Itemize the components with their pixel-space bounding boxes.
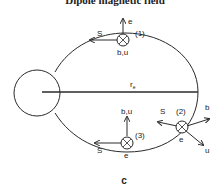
node-2: S b u (2) e — [158, 103, 210, 155]
bu-label: b,u — [117, 48, 128, 57]
radius-label: re — [130, 80, 136, 90]
node-label: (2) — [176, 107, 186, 116]
e-label: e — [128, 17, 133, 26]
e-label: e — [124, 151, 129, 160]
s-label: S — [97, 29, 102, 38]
b-vector-arrow — [187, 119, 209, 126]
node-label: (1) — [135, 29, 145, 38]
bu-label: b,u — [121, 107, 132, 116]
u-label: u — [205, 146, 209, 155]
node-1: e S (1) b,u — [90, 17, 145, 57]
figure-title: Dipole magnetic field — [65, 0, 165, 6]
dipole-diagram: Dipole magnetic field re e S (1) b,u b,u… — [0, 0, 218, 188]
e-label: e — [179, 135, 184, 144]
b-label: b — [205, 103, 210, 112]
s-label: S — [97, 146, 102, 155]
node-label: (3) — [135, 131, 145, 140]
earth-circle — [14, 70, 60, 116]
s-label: S — [160, 107, 165, 116]
s-vector-arrow — [158, 122, 177, 126]
u-vector-arrow — [186, 131, 203, 145]
figure-caption: c — [121, 175, 127, 186]
